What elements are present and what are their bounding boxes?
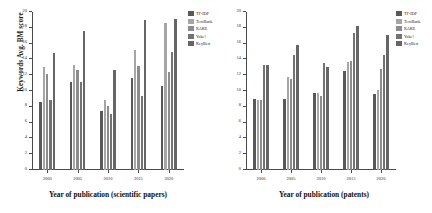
bar: [171, 52, 173, 171]
bar: [257, 100, 259, 170]
y-tick-label: 16: [237, 39, 241, 44]
legend-item[interactable]: TF-IDF: [188, 11, 212, 16]
bar: [134, 50, 136, 170]
y-tick: 14: [29, 58, 32, 59]
legend-item[interactable]: Yake!: [396, 34, 420, 39]
x-tick-label: 2005: [287, 176, 296, 181]
bar: [53, 53, 55, 170]
y-tick-label: 10: [23, 87, 27, 92]
bar: [49, 100, 51, 170]
y-tick: 12: [243, 74, 246, 75]
bar: [353, 33, 355, 170]
panel-patents: 02468101214161820 20002005201020152020 Y…: [216, 0, 432, 213]
bar: [104, 100, 106, 170]
y-tick: 0: [243, 169, 246, 170]
bar: [164, 23, 166, 170]
x-tick: [351, 170, 352, 173]
bar: [287, 77, 289, 170]
legend-label: TF-IDF: [196, 11, 209, 16]
x-tick-label: 2015: [134, 176, 143, 181]
legend-item[interactable]: Yake!: [188, 34, 212, 39]
legend-item[interactable]: KeyBert: [188, 41, 212, 46]
y-tick: 20: [243, 11, 246, 12]
legend-label: KeyBert: [196, 41, 210, 46]
y-tick-label: 16: [23, 39, 27, 44]
y-tick: 16: [29, 43, 32, 44]
y-tick: 4: [243, 137, 246, 138]
y-tick: 2: [243, 153, 246, 154]
legend-item[interactable]: RAKE: [188, 26, 212, 31]
plot-area-right: 02468101214161820 20002005201020152020: [246, 12, 396, 170]
legend-left: TF-IDFTextRankRAKEYake!KeyBert: [188, 11, 212, 46]
bar: [386, 35, 388, 170]
legend-swatch-icon: [188, 19, 194, 24]
bar: [107, 106, 109, 170]
bar-group-container-left: [32, 12, 184, 170]
y-tick-label: 8: [239, 102, 241, 107]
bar: [380, 69, 382, 170]
bar-group-container-right: [246, 12, 396, 170]
y-tick: 10: [29, 90, 32, 91]
x-tick: [138, 170, 139, 173]
bar: [110, 114, 112, 170]
bar: [350, 61, 352, 170]
legend-swatch-icon: [396, 19, 402, 24]
x-tick-label: 2020: [164, 176, 173, 181]
bar: [137, 66, 139, 170]
legend-item[interactable]: TextRank: [188, 19, 212, 24]
legend-item[interactable]: KeyBert: [396, 41, 420, 46]
y-tick-label: 0: [239, 166, 241, 171]
x-tick-label: 2010: [317, 176, 326, 181]
y-tick-label: 12: [237, 71, 241, 76]
legend-label: TextRank: [196, 19, 212, 24]
bar: [383, 55, 385, 170]
legend-label: RAKE: [404, 26, 415, 31]
bar: [260, 100, 262, 170]
x-tick-label: 2000: [257, 176, 266, 181]
x-tick-label: 2020: [377, 176, 386, 181]
bar: [253, 99, 255, 170]
y-tick-label: 8: [25, 102, 27, 107]
bar: [293, 55, 295, 170]
y-tick-label: 20: [237, 8, 241, 13]
y-tick-label: 4: [25, 134, 27, 139]
legend-label: Yake!: [404, 34, 414, 39]
legend-item[interactable]: RAKE: [396, 26, 420, 31]
bar: [296, 45, 298, 170]
bar: [263, 65, 265, 170]
bar: [174, 19, 176, 170]
legend-item[interactable]: TF-IDF: [396, 11, 420, 16]
y-tick: 6: [243, 122, 246, 123]
legend-swatch-icon: [188, 41, 194, 46]
bar: [313, 93, 315, 170]
legend-swatch-icon: [396, 26, 402, 31]
legend-label: RAKE: [196, 26, 207, 31]
legend-right: TF-IDFTextRankRAKEYake!KeyBert: [396, 11, 420, 46]
panel-scientific-papers: Keywords Avg. BM score 02468101214161820…: [0, 0, 216, 213]
x-tick-label: 2000: [43, 176, 52, 181]
y-tick: 18: [243, 27, 246, 28]
legend-swatch-icon: [188, 26, 194, 31]
bar: [290, 79, 292, 170]
x-tick: [321, 170, 322, 173]
y-tick-label: 12: [23, 71, 27, 76]
legend-item[interactable]: TextRank: [396, 19, 420, 24]
y-tick-label: 10: [237, 87, 241, 92]
bar: [347, 62, 349, 170]
bar: [83, 31, 85, 170]
y-tick-label: 18: [23, 23, 27, 28]
legend-swatch-icon: [396, 11, 402, 16]
bar: [141, 96, 143, 170]
legend-label: KeyBert: [404, 41, 418, 46]
y-tick: 14: [243, 58, 246, 59]
bar: [343, 71, 345, 170]
legend-label: TF-IDF: [404, 11, 417, 16]
bar: [320, 96, 322, 170]
bar: [144, 20, 146, 170]
x-tick: [47, 170, 48, 173]
y-tick-label: 2: [239, 150, 241, 155]
y-tick-label: 20: [23, 8, 27, 13]
x-tick: [261, 170, 262, 173]
y-tick: 18: [29, 27, 32, 28]
bar: [46, 74, 48, 170]
